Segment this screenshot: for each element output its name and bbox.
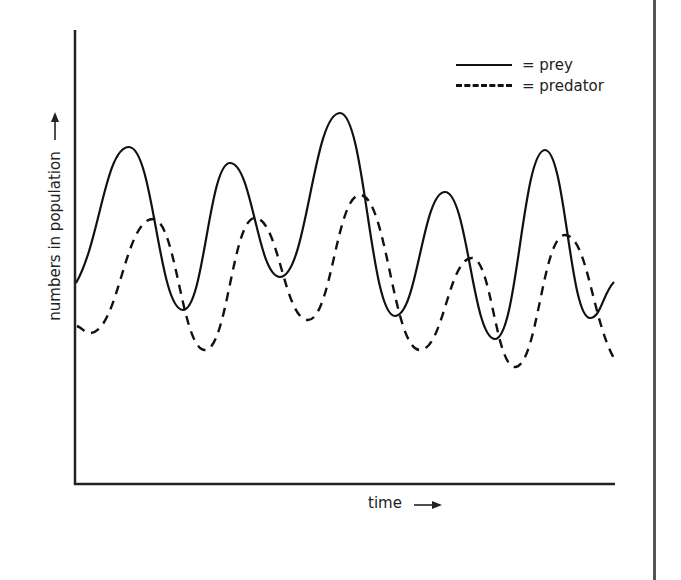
y-axis-label: numbers in population [46, 151, 64, 320]
y-axis-arrowhead-icon [51, 112, 59, 122]
x-axis-label: time [368, 494, 402, 512]
prey-line [76, 113, 614, 339]
legend-label-predator: = predator [522, 77, 604, 95]
legend-label-prey: = prey [522, 56, 573, 74]
predator-line [77, 195, 615, 367]
solid-line-icon [456, 64, 512, 66]
dashed-line-icon [456, 84, 512, 87]
legend-item-prey: = prey [456, 54, 604, 75]
x-axis-arrowhead-icon [432, 501, 442, 509]
legend: = prey = predator [456, 54, 604, 96]
legend-item-predator: = predator [456, 75, 604, 96]
